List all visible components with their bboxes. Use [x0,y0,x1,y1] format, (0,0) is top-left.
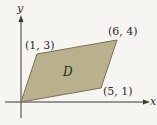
region-label-d: D [63,66,73,78]
diagram-canvas: y x (1, 3) (6, 4) (5, 1) D [0,0,157,125]
vertex-label-6-4: (6, 4) [108,26,138,37]
x-axis-label: x [150,96,156,107]
diagram-svg [0,0,157,125]
vertex-label-1-3: (1, 3) [25,40,55,51]
vertex-label-5-1: (5, 1) [103,86,133,97]
y-axis-arrow-icon [19,15,24,22]
x-axis-arrow-icon [143,100,150,105]
y-axis-label: y [17,3,23,14]
